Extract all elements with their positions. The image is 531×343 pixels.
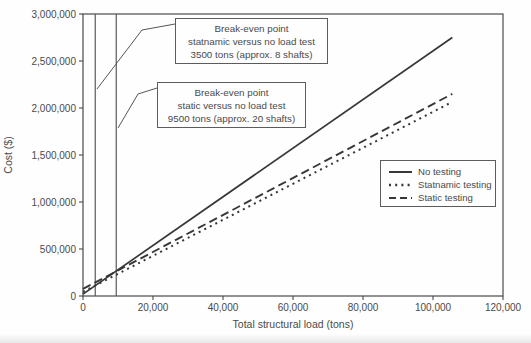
legend-item-no-testing: No testing xyxy=(388,165,495,178)
x-axis-tick-label: 20,000 xyxy=(138,302,169,313)
x-axis-tick-label: 40,000 xyxy=(208,302,239,313)
x-axis-tick-label: 80,000 xyxy=(348,302,379,313)
legend-label: Static testing xyxy=(418,192,473,203)
legend-label: Statnamic testing xyxy=(418,179,492,190)
x-axis-tick-label: 120,000 xyxy=(485,302,522,313)
legend-item-static-testing: Static testing xyxy=(388,191,495,204)
annotation-line: Break-even point xyxy=(176,22,327,35)
dotted-line-sample-icon xyxy=(388,182,413,188)
y-axis-tick-label: 2,500,000 xyxy=(32,56,77,67)
annotation-line: static versus no load test xyxy=(158,99,305,112)
legend-item-statnamic-testing: Statnamic testing xyxy=(388,178,495,191)
y-axis-tick-label: 0 xyxy=(70,291,76,302)
x-axis-tick-label: 100,000 xyxy=(415,302,452,313)
annotation-line: 3500 tons (approx. 8 shafts) xyxy=(176,48,327,61)
x-axis-tick-label: 60,000 xyxy=(278,302,309,313)
annotation-leader-line-statnamic xyxy=(97,24,175,89)
break-even-cost-chart: 0500,0001,000,0001,500,0002,000,0002,500… xyxy=(0,0,531,343)
legend-label: No testing xyxy=(418,166,461,177)
solid-line-sample-icon xyxy=(388,169,413,175)
annotation-line: Break-even point xyxy=(158,86,305,99)
y-axis-tick-label: 500,000 xyxy=(40,244,77,255)
x-axis-tick-label: 0 xyxy=(80,302,86,313)
y-axis-tick-label: 2,000,000 xyxy=(32,103,77,114)
annotation-line: 9500 tons (approx. 20 shafts) xyxy=(158,112,305,125)
x-axis-label: Total structural load (tons) xyxy=(233,318,354,330)
annotation-line: statnamic versus no load test xyxy=(176,35,327,48)
legend: No testing Statnamic testing Static test… xyxy=(380,160,496,207)
y-axis-tick-label: 1,000,000 xyxy=(32,197,77,208)
dashed-line-sample-icon xyxy=(388,195,413,201)
y-axis-label: Cost ($) xyxy=(2,136,14,173)
y-axis-tick-label: 1,500,000 xyxy=(32,150,77,161)
annotation-break-even-statnamic: Break-even point statnamic versus no loa… xyxy=(175,18,328,64)
annotation-break-even-static: Break-even point static versus no load t… xyxy=(157,82,306,128)
y-axis-tick-label: 3,000,000 xyxy=(32,9,77,20)
annotation-leader-line-static xyxy=(118,88,157,128)
